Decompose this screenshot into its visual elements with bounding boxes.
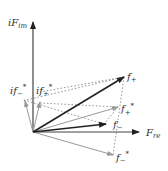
label-f-plus: f+ bbox=[126, 71, 137, 84]
vector-f-plus-star bbox=[33, 107, 118, 132]
vector-if-minus-star bbox=[25, 101, 33, 132]
real-axis-label: Fre bbox=[145, 127, 160, 140]
imaginary-axis-label: iFim bbox=[8, 17, 27, 30]
label-f-minus: f− bbox=[112, 119, 123, 132]
vector-f-minus-star bbox=[33, 132, 113, 155]
label-if-minus-star: if−* bbox=[10, 83, 27, 98]
label-f-plus-star: f+* bbox=[120, 102, 135, 117]
label-if-plus-star: if+* bbox=[36, 83, 53, 98]
label-f-minus-star: f−* bbox=[115, 150, 130, 165]
complex-plane-diagram: iFim Fre f+ f+* f− f−* if−* if+* bbox=[0, 0, 168, 171]
